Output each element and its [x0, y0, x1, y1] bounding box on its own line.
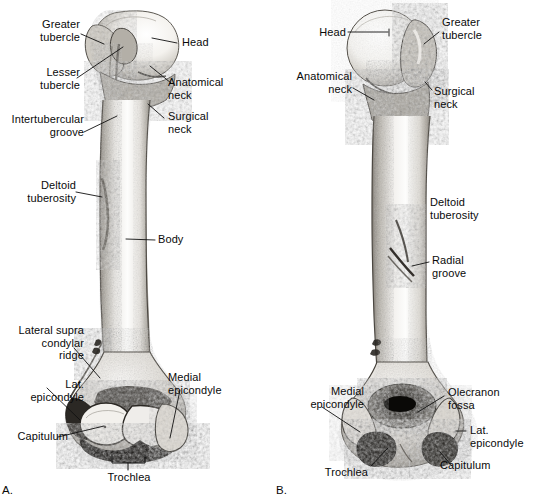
- label-anatomical-neck-a: Anatomical neck: [168, 76, 254, 101]
- label-intertubercular-groove-a: Intertubercular groove: [2, 113, 84, 138]
- label-body-a: Body: [158, 233, 212, 246]
- label-surgical-neck-a: Surgical neck: [168, 110, 240, 135]
- label-trochlea-b: Trochlea: [302, 466, 368, 479]
- label-head-b: Head: [300, 26, 346, 39]
- label-capitulum-a: Capitulum: [2, 430, 68, 443]
- label-olecranon-fossa-b: Olecranon fossa: [448, 386, 522, 411]
- label-trochlea-a: Trochlea: [96, 471, 162, 484]
- label-capitulum-b: Capitulum: [440, 459, 512, 472]
- label-lesser-tubercle-a: Lesser tubercle: [4, 66, 80, 91]
- label-lat-epicondyle-a: Lat. epicondyle: [4, 378, 84, 403]
- deltoid-tuberosity-anterior: [100, 176, 116, 254]
- label-lat-epicondyle-b: Lat. epicondyle: [470, 424, 542, 449]
- anatomy-plate: Greater tubercle Lesser tubercle Intertu…: [0, 0, 548, 504]
- label-head-a: Head: [182, 36, 242, 49]
- label-greater-tubercle-a: Greater tubercle: [4, 18, 80, 43]
- label-deltoid-tuberosity-b: Deltoid tuberosity: [430, 196, 508, 221]
- label-deltoid-tuberosity-a: Deltoid tuberosity: [4, 179, 76, 204]
- label-lateral-supracondylar-ridge-a: Lateral supra condylar ridge: [2, 324, 84, 362]
- humerus-illustration-svg: [0, 0, 548, 504]
- label-medial-epicondyle-b: Medial epicondyle: [284, 385, 364, 410]
- label-medial-epicondyle-a: Medial epicondyle: [168, 371, 248, 396]
- panel-id-b: B.: [276, 484, 287, 496]
- olecranon-fossa-depth: [384, 396, 416, 412]
- label-surgical-neck-b: Surgical neck: [434, 85, 504, 110]
- label-radial-groove-b: Radial groove: [432, 254, 490, 279]
- panel-id-a: A.: [2, 484, 13, 496]
- label-greater-tubercle-b: Greater tubercle: [442, 16, 514, 41]
- label-anatomical-neck-b: Anatomical neck: [286, 70, 352, 95]
